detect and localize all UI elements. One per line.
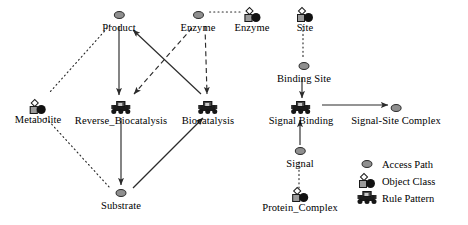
legend-label: Rule Pattern: [382, 193, 434, 204]
rule-pattern-icon: [290, 101, 312, 115]
object-class-icon: [289, 188, 311, 202]
node-substrate[interactable]: Substrate: [101, 186, 141, 212]
node-site-object-class[interactable]: Site: [294, 8, 316, 34]
node-label: Biocatalysis: [182, 115, 235, 127]
node-label: Reverse_Biocatalysis: [75, 115, 167, 127]
node-metabolite[interactable]: Metabolite: [15, 100, 62, 126]
node-binding-site[interactable]: Binding Site: [277, 59, 331, 85]
legend: Access Path Object Class Rule Pattern: [356, 156, 468, 207]
node-label: Enzyme: [180, 22, 215, 34]
node-reverse-biocatalysis[interactable]: Reverse_Biocatalysis: [75, 101, 167, 127]
legend-item-access-path: Access Path: [356, 156, 468, 172]
node-label: Signal Binding: [269, 115, 334, 127]
edge-biocatalysis-product: [133, 30, 201, 94]
node-label: Signal: [286, 158, 313, 170]
node-product[interactable]: Product: [102, 8, 135, 34]
edge-metabolite-substrate: [46, 118, 110, 188]
rule-pattern-icon: [110, 101, 132, 115]
node-label: Product: [102, 22, 135, 34]
legend-item-rule-pattern: Rule Pattern: [356, 190, 468, 206]
node-signal-binding[interactable]: Signal Binding: [269, 101, 334, 127]
legend-item-object-class: Object Class: [356, 173, 468, 189]
edge-product-metabolite: [50, 25, 110, 92]
rule-pattern-icon: [356, 191, 378, 205]
node-label: Signal-Site Complex: [351, 115, 441, 127]
legend-label: Access Path: [382, 159, 433, 170]
access-path-icon: [356, 157, 378, 171]
node-label: Site: [297, 22, 314, 34]
node-label: Substrate: [101, 200, 141, 212]
object-class-icon: [27, 100, 49, 114]
object-class-icon: [294, 8, 316, 22]
edge-enzyme-biocatalysis: [205, 26, 207, 94]
node-protein-complex[interactable]: Protein_Complex: [262, 188, 338, 214]
node-label: Protein_Complex: [262, 202, 338, 214]
node-label: Metabolite: [15, 114, 62, 126]
node-label: Enzyme: [234, 22, 269, 34]
diagram-canvas: Reverse_Biocatalysis (dashed, arrow down…: [0, 0, 468, 225]
access-path-icon: [289, 144, 311, 158]
node-enzyme-access-path[interactable]: Enzyme: [180, 8, 215, 34]
rule-pattern-icon: [197, 101, 219, 115]
edge-substrate-biocatalysis: [133, 118, 203, 188]
legend-label: Object Class: [382, 176, 435, 187]
object-class-icon: [356, 174, 378, 188]
node-biocatalysis[interactable]: Biocatalysis: [182, 101, 235, 127]
node-signal[interactable]: Signal: [286, 144, 313, 170]
node-signal-site-complex[interactable]: Signal-Site Complex: [351, 101, 441, 127]
access-path-icon: [293, 59, 315, 73]
access-path-icon: [108, 8, 130, 22]
access-path-icon: [385, 101, 407, 115]
node-enzyme-object-class[interactable]: Enzyme: [234, 8, 269, 34]
edge-enzyme-reverse-biocatalysis: [134, 28, 192, 94]
object-class-icon: [241, 8, 263, 22]
node-label: Binding Site: [277, 73, 331, 85]
access-path-icon: [110, 186, 132, 200]
access-path-icon: [187, 8, 209, 22]
